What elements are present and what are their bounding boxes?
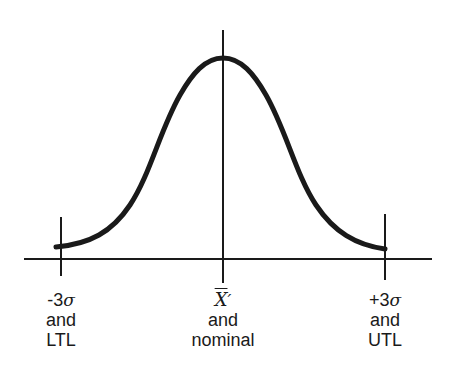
utl-label: +3σ and UTL [340, 290, 430, 350]
utl-label-line2: and [340, 310, 430, 330]
ltl-label-line2: and [16, 310, 106, 330]
utl-label-line1: +3σ [340, 290, 430, 310]
ltl-label-line3: LTL [16, 330, 106, 350]
nominal-label-line1: X′ [178, 290, 268, 310]
nominal-label-line2: and [178, 310, 268, 330]
nominal-label-line3: nominal [178, 330, 268, 350]
utl-label-line3: UTL [340, 330, 430, 350]
nominal-label: X′ and nominal [178, 290, 268, 350]
bell-curve [56, 58, 385, 249]
ltl-label: -3σ and LTL [16, 290, 106, 350]
ltl-label-line1: -3σ [16, 290, 106, 310]
